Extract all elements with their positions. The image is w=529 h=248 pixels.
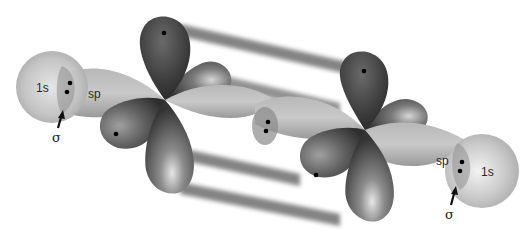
right-sigma-label: σ (445, 208, 454, 221)
electron-dot (362, 69, 367, 74)
electron-dot (314, 173, 319, 178)
left-1s-label: 1s (36, 82, 49, 94)
left-sigma-label: σ (52, 131, 61, 144)
electron-dot (65, 90, 70, 95)
electron-dot (114, 132, 119, 137)
electron-dot (264, 129, 269, 134)
left-sp-label: sp (88, 88, 101, 100)
electron-dot (266, 120, 271, 125)
electron-dot (458, 169, 463, 174)
right-1s-label: 1s (481, 166, 494, 178)
electron-dot (68, 81, 73, 86)
left-1s-orbital (16, 51, 88, 123)
electron-dot (460, 160, 465, 165)
left-carbon-front-lobes (100, 98, 194, 194)
right-sp-label: sp (436, 155, 449, 167)
electron-dot (162, 31, 167, 36)
